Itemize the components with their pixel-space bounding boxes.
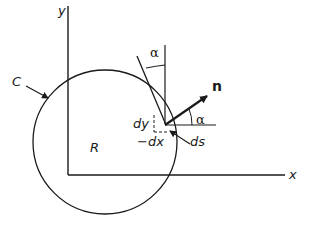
dy-label: dy xyxy=(133,117,149,130)
top-angle-label: α xyxy=(150,46,159,59)
right-angle-label: α xyxy=(196,113,205,126)
normal-label: n xyxy=(212,79,222,93)
curve-pointer-arrow xyxy=(26,86,48,98)
curve-label: C xyxy=(12,75,21,88)
x-axis-label: x xyxy=(289,168,297,181)
y-axis-label: y xyxy=(58,4,66,17)
tangent-line xyxy=(137,56,166,125)
region-label: R xyxy=(90,141,99,154)
ds-pointer-arrow xyxy=(170,131,190,144)
right-angle-arc xyxy=(189,109,192,125)
ds-label: ds xyxy=(190,135,205,148)
top-angle-arc xyxy=(146,65,165,68)
diagram-canvas xyxy=(0,0,316,229)
dx-label: −dx xyxy=(137,135,164,148)
